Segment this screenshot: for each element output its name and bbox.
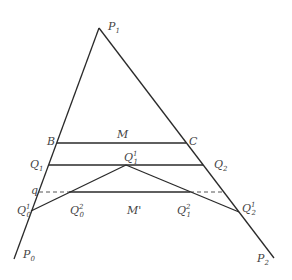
label-q: q bbox=[31, 184, 38, 197]
label-B: B bbox=[46, 135, 55, 148]
label-C: C bbox=[189, 135, 198, 148]
label-Q1: Q1 bbox=[30, 158, 44, 173]
label-P1: P1 bbox=[107, 20, 120, 35]
label-M: M bbox=[116, 128, 129, 141]
label-P2: P2 bbox=[256, 252, 269, 267]
label-P0: P0 bbox=[22, 248, 35, 263]
geometry-diagram: P1 B M C Q1 Q11 Q2 q Q10 Q20 M' Q21 Q12 … bbox=[0, 0, 292, 280]
label-Q1-1: Q11 bbox=[124, 150, 138, 166]
label-Q0-1: Q10 bbox=[17, 203, 32, 219]
label-Q1-2: Q21 bbox=[177, 203, 191, 219]
label-Q2: Q2 bbox=[214, 158, 228, 173]
label-Q2-1: Q12 bbox=[242, 201, 257, 217]
label-Q0-2: Q20 bbox=[70, 203, 85, 219]
label-M-prime: M' bbox=[126, 204, 141, 217]
